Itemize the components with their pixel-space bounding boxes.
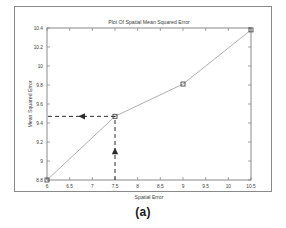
figure-frame <box>14 6 272 192</box>
figure-panel: Plot Of Spatial Mean Squared Error Spati… <box>0 0 286 228</box>
figure-caption: (a) <box>0 205 286 219</box>
x-axis-label: Spatial Error <box>135 194 164 200</box>
